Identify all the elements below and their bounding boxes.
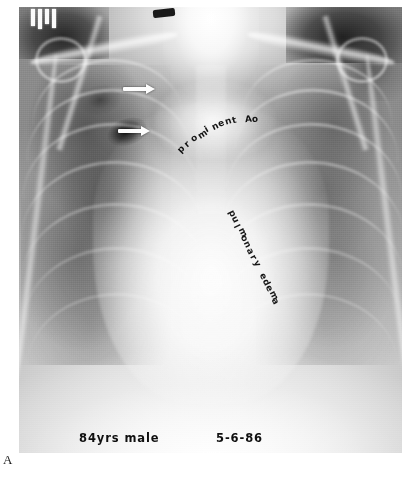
- annotation-char: o: [252, 115, 258, 124]
- arrow-shaft: [123, 87, 147, 91]
- figure-panel-label: A: [3, 452, 12, 468]
- patient-info-label: 84yrs male: [79, 431, 160, 445]
- arrow-head: [146, 84, 155, 94]
- film-grain-overlay: [19, 7, 402, 453]
- arrow-head: [141, 126, 150, 136]
- arrow-shaft: [118, 129, 142, 133]
- study-date-label: 5-6-86: [216, 431, 263, 445]
- chest-radiograph-image: prominent Ao pulmonary edema 84yrs male …: [19, 7, 402, 453]
- figure-panel: prominent Ao pulmonary edema 84yrs male …: [0, 0, 408, 482]
